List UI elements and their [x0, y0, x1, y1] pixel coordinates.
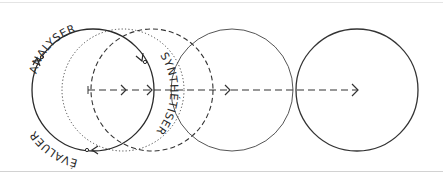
node-dot	[85, 148, 88, 151]
label-evaluer: ÉVALUER	[27, 128, 79, 169]
diagram-frame: ANALYSER SYNTHÉTISER ÉVALUER	[0, 0, 443, 174]
label-analyser: ANALYSER	[27, 22, 78, 75]
node-dot	[143, 60, 146, 63]
process-diagram: ANALYSER SYNTHÉTISER ÉVALUER	[0, 0, 443, 174]
label-synthetiser: SYNTHÉTISER	[153, 50, 180, 138]
cycle-arrow-left-icon	[92, 146, 98, 154]
